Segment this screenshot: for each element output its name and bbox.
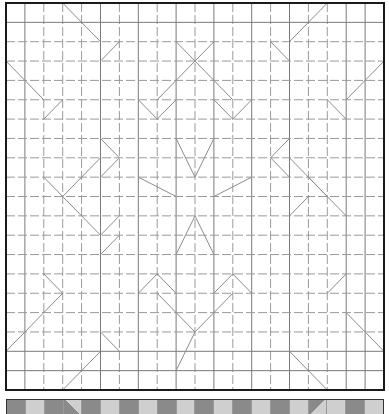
diagonal-crease (327, 197, 346, 216)
strip-cell (158, 400, 177, 414)
diagonal-crease (327, 274, 346, 293)
diagonal-crease (138, 100, 157, 119)
diagonal-crease (101, 332, 120, 351)
strip-cell (101, 400, 120, 414)
diagonal-crease (233, 100, 252, 119)
diagonal-crease (6, 293, 63, 351)
strip-cell (346, 400, 365, 414)
diagonal-crease (214, 274, 233, 293)
diagonal-crease (327, 100, 346, 119)
diagonal-crease (290, 197, 309, 216)
diagonal-crease (176, 42, 195, 61)
diagonal-crease (157, 100, 176, 119)
diagonal-crease (101, 235, 120, 254)
diagonal-crease (271, 138, 290, 157)
diagonal-crease (101, 216, 120, 235)
crease-pattern (0, 0, 389, 396)
strip-cell (177, 400, 196, 414)
strip-cell (64, 400, 83, 414)
strip-cell (7, 400, 26, 414)
diagonal-crease (214, 100, 233, 119)
strip-cell (309, 400, 328, 414)
strip-cell (45, 400, 64, 414)
strip-cell (327, 400, 346, 414)
strip-cell (365, 400, 383, 414)
strip-cell (120, 400, 139, 414)
strip-cell (252, 400, 271, 414)
strip-cell (139, 400, 158, 414)
strip-cell (233, 400, 252, 414)
diagonal-crease (44, 100, 63, 119)
diagonal-crease (271, 42, 290, 61)
diagonal-crease (101, 158, 120, 177)
strip-cell (26, 400, 45, 414)
diagonal-crease (101, 42, 120, 61)
diagonal-crease (44, 274, 63, 293)
strip-cell (271, 400, 290, 414)
diagonal-crease (214, 177, 252, 196)
diagonal-crease (233, 274, 252, 293)
color-strip (6, 399, 384, 414)
strip-cell (214, 400, 233, 414)
strip-cell (290, 400, 309, 414)
diagonal-crease (44, 177, 63, 196)
diagonal-crease (308, 177, 327, 196)
strip-cell (82, 400, 101, 414)
diagonal-crease (138, 274, 157, 293)
diagonal-crease (271, 158, 290, 177)
diagonal-crease (101, 138, 120, 157)
diagonal-crease (157, 274, 176, 293)
diagonal-crease (138, 177, 176, 196)
diagonal-crease (195, 42, 214, 61)
strip-cell (195, 400, 214, 414)
